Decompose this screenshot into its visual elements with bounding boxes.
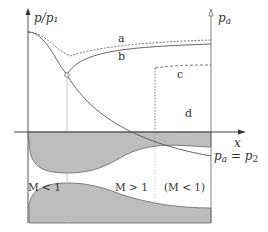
x-axis-arrow-icon [238, 130, 246, 135]
left-y-axis-arrow-icon [26, 8, 31, 15]
upper-nozzle-wall [28, 132, 211, 173]
region-subsonic-after-shock-label: (M < 1) [164, 181, 205, 193]
y-axis-left-label: p/p₁ [34, 11, 58, 25]
exit-condition-label: pa = p2 [214, 149, 258, 164]
x-axis-label: x [234, 136, 241, 150]
right-y-axis-arrow-icon [209, 9, 213, 16]
curve-c-label: c [177, 68, 183, 81]
curve-a-label: a [118, 32, 125, 45]
region-supersonic-label: M > 1 [115, 181, 148, 193]
nozzle-diagram: p/p₁ pa a b c d pa = p2 x M < 1 M > 1 (M… [0, 0, 268, 232]
sonic-point-marker [65, 73, 69, 77]
y-axis-right-label: pa [218, 11, 231, 26]
curve-b [67, 44, 211, 75]
region-subsonic-label: M < 1 [28, 181, 61, 193]
curve-b-label: b [118, 50, 125, 63]
curve-d-label: d [185, 107, 192, 120]
